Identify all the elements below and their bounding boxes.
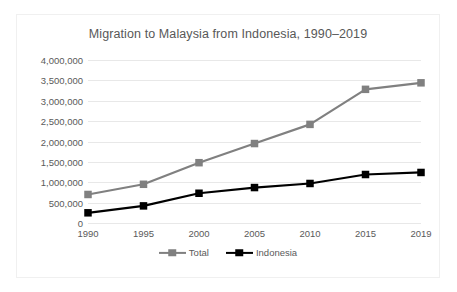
legend-item-indonesia[interactable]: Indonesia — [226, 247, 297, 258]
series-indonesia — [84, 169, 425, 217]
data-point-marker — [84, 191, 92, 199]
data-point-marker — [195, 159, 203, 167]
legend-label: Indonesia — [256, 247, 297, 258]
data-point-marker — [417, 169, 425, 177]
legend-swatch-icon — [159, 247, 186, 258]
data-point-marker — [84, 209, 92, 217]
chart-container: Migration to Malaysia from Indonesia, 19… — [16, 14, 440, 278]
y-axis: 0500,0001,000,0001,500,0002,000,0002,500… — [17, 60, 83, 223]
series-line — [88, 172, 421, 212]
x-axis-tick-label: 1990 — [77, 228, 98, 239]
y-axis-tick-label: 1,000,000 — [41, 177, 83, 188]
x-axis-tick-label: 2010 — [299, 228, 320, 239]
x-axis-tick-label: 2000 — [188, 228, 209, 239]
gridline — [88, 223, 421, 224]
data-point-marker — [251, 184, 259, 192]
chart-title: Migration to Malaysia from Indonesia, 19… — [17, 27, 439, 41]
y-axis-tick-label: 0 — [78, 218, 83, 229]
plot-area — [88, 60, 421, 223]
y-axis-tick-label: 1,500,000 — [41, 156, 83, 167]
chart-legend: TotalIndonesia — [17, 247, 439, 258]
y-axis-tick-label: 500,000 — [49, 197, 83, 208]
data-point-marker — [306, 121, 314, 129]
data-point-marker — [251, 140, 259, 148]
x-axis-tick-label: 2019 — [410, 228, 431, 239]
data-point-marker — [306, 180, 314, 188]
data-point-marker — [195, 190, 203, 198]
y-axis-tick-label: 3,000,000 — [41, 95, 83, 106]
series-layer — [88, 60, 421, 223]
y-axis-tick-label: 3,500,000 — [41, 75, 83, 86]
y-axis-tick-label: 4,000,000 — [41, 55, 83, 66]
y-axis-tick-label: 2,000,000 — [41, 136, 83, 147]
data-point-marker — [140, 181, 148, 189]
data-point-marker — [140, 202, 148, 210]
series-total — [84, 79, 425, 198]
data-point-marker — [362, 171, 370, 179]
legend-item-total[interactable]: Total — [159, 247, 209, 258]
series-line — [88, 83, 421, 195]
x-axis: 1990199520002005201020152019 — [88, 228, 421, 244]
data-point-marker — [362, 86, 370, 94]
x-axis-tick-label: 2015 — [355, 228, 376, 239]
y-axis-tick-label: 2,500,000 — [41, 116, 83, 127]
data-point-marker — [417, 79, 425, 87]
x-axis-tick-label: 1995 — [133, 228, 154, 239]
legend-swatch-icon — [226, 247, 253, 258]
legend-label: Total — [189, 247, 209, 258]
x-axis-tick-label: 2005 — [244, 228, 265, 239]
